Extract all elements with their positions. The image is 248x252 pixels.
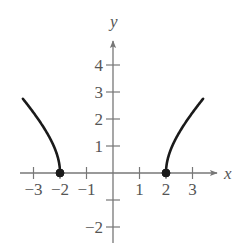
- y-tick-label: −2: [85, 218, 103, 237]
- x-tick-label: −3: [24, 180, 42, 199]
- y-tick-label: 1: [95, 137, 104, 156]
- x-tick-label: 3: [188, 180, 197, 199]
- function-graph: x y −3−2−1123−21234: [0, 0, 248, 252]
- y-tick-label: 4: [95, 56, 104, 75]
- y-tick-label: 2: [95, 110, 104, 129]
- x-tick-label: 2: [162, 180, 171, 199]
- left-branch-curve: [23, 99, 60, 173]
- x-tick-label: −2: [51, 180, 69, 199]
- y-axis-label: y: [108, 12, 118, 31]
- x-axis-label: x: [223, 164, 232, 183]
- right-branch-curve: [166, 99, 203, 173]
- closed-point-marker: [56, 169, 64, 177]
- y-tick-label: 3: [95, 83, 104, 102]
- closed-point-marker: [162, 169, 170, 177]
- x-tick-label: 1: [135, 180, 144, 199]
- x-tick-label: −1: [77, 180, 95, 199]
